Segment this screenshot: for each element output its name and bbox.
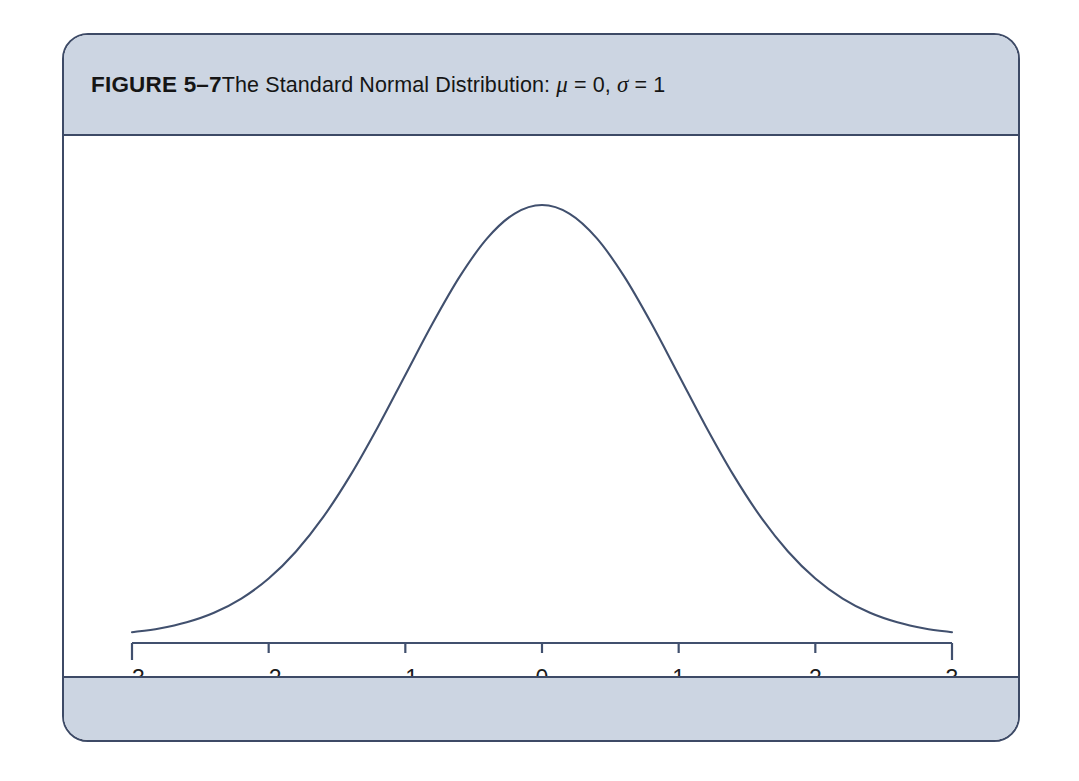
mu-symbol: μ bbox=[556, 72, 568, 97]
figure-title: FIGURE 5–7The Standard Normal Distributi… bbox=[91, 72, 665, 98]
figure-frame: FIGURE 5–7The Standard Normal Distributi… bbox=[62, 33, 1020, 742]
figure-number-label: FIGURE 5–7 bbox=[91, 72, 222, 97]
mu-value: = 0, bbox=[568, 73, 617, 97]
x-axis-ticks bbox=[132, 643, 952, 660]
plot-area: –3–2–10123 bbox=[64, 136, 1018, 678]
sigma-symbol: σ bbox=[617, 72, 628, 97]
figure-caption-prefix: The Standard Normal Distribution: bbox=[222, 73, 556, 97]
figure-footer-band bbox=[64, 676, 1018, 740]
sigma-value: = 1 bbox=[628, 73, 665, 97]
bell-curve-path bbox=[132, 205, 952, 632]
normal-distribution-chart: –3–2–10123 bbox=[64, 136, 1017, 678]
figure-header-band: FIGURE 5–7The Standard Normal Distributi… bbox=[64, 35, 1018, 136]
